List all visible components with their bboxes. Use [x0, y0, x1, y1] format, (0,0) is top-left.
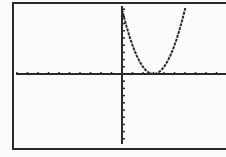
axes: [16, 6, 226, 144]
calculator-graph-screen: [0, 0, 226, 157]
graph-frame: [13, 3, 226, 149]
graph-plot: [0, 0, 226, 157]
parabola-curve: [122, 7, 186, 74]
